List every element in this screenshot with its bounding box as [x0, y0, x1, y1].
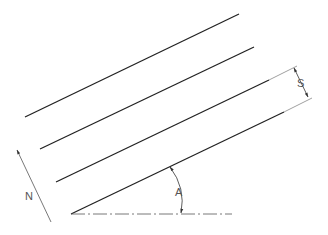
diagram-canvas: S A N: [0, 0, 328, 235]
north-arrow-icon: [17, 150, 51, 222]
parallel-line-4: [71, 112, 284, 214]
parallel-line-3: [56, 80, 269, 182]
extension-line-upper: [269, 66, 297, 80]
north-label: N: [25, 190, 33, 202]
parallel-line-2: [40, 47, 254, 149]
angle-label: A: [175, 186, 183, 198]
spacing-label: S: [297, 77, 304, 89]
extension-line-lower: [284, 98, 312, 112]
parallel-line-1: [25, 14, 239, 117]
